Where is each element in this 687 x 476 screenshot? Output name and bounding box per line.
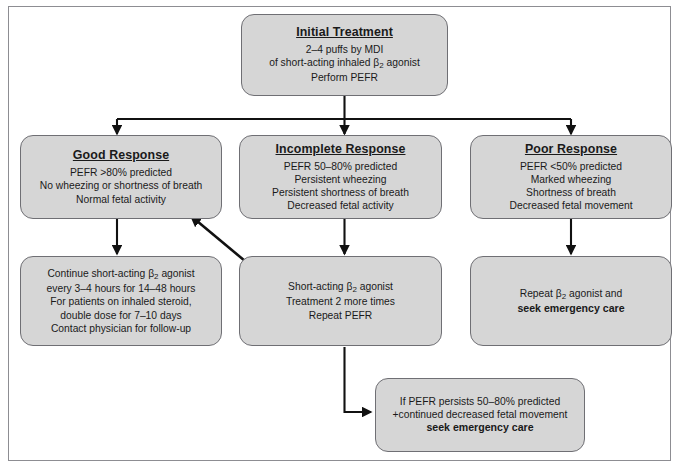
- node-title: Good Response: [73, 148, 169, 164]
- node-line: Marked wheezing: [531, 173, 612, 186]
- node-line: Treatment 2 more times: [286, 295, 395, 308]
- node-line: For patients on inhaled steroid,: [50, 295, 191, 308]
- node-line: Continue short-acting β2 agonist: [47, 267, 194, 282]
- node-line: Perform PEFR: [311, 71, 378, 84]
- node-emergency-care[interactable]: Repeat β2 agonist and seek emergency car…: [470, 256, 672, 346]
- node-poor-response[interactable]: Poor Response PEFR <50% predicted Marked…: [470, 135, 672, 219]
- node-line: PEFR >80% predicted: [70, 166, 172, 179]
- node-line: Shortness of breath: [526, 186, 616, 199]
- node-line: Decreased fetal movement: [509, 199, 632, 212]
- node-title: Incomplete Response: [276, 142, 406, 158]
- node-persistent-emergency[interactable]: If PEFR persists 50–80% predicted +conti…: [375, 378, 585, 452]
- flowchart-page: Initial Treatment 2–4 puffs by MDI of sh…: [0, 0, 687, 476]
- node-line: of short-acting inhaled β2 agonist: [269, 56, 420, 71]
- node-line: 2–4 puffs by MDI: [306, 43, 384, 56]
- node-good-response[interactable]: Good Response PEFR >80% predicted No whe…: [20, 135, 222, 219]
- node-incomplete-response[interactable]: Incomplete Response PEFR 50–80% predicte…: [239, 135, 442, 219]
- node-line: Persistent shortness of breath: [272, 186, 409, 199]
- node-line: double dose for 7–10 days: [60, 309, 181, 322]
- node-repeat-treatment[interactable]: Short-acting β2 agonist Treatment 2 more…: [239, 256, 442, 346]
- node-line-emphasis: seek emergency care: [426, 421, 533, 435]
- node-line: Contact physician for follow-up: [51, 322, 191, 335]
- node-line: Persistent wheezing: [294, 173, 386, 186]
- node-line: Repeat PEFR: [309, 309, 373, 322]
- node-line: Normal fetal activity: [76, 193, 166, 206]
- node-initial-treatment[interactable]: Initial Treatment 2–4 puffs by MDI of sh…: [241, 14, 448, 96]
- node-line: No wheezing or shortness of breath: [40, 179, 203, 192]
- connector-repeat-to-persistent: [345, 347, 372, 412]
- node-line: Decreased fetal activity: [287, 199, 393, 212]
- node-line: +continued decreased fetal movement: [393, 408, 568, 421]
- node-line: Short-acting β2 agonist: [288, 280, 393, 295]
- node-continue-treatment[interactable]: Continue short-acting β2 agonist every 3…: [20, 256, 222, 346]
- node-line: Repeat β2 agonist and: [520, 287, 623, 302]
- node-title: Poor Response: [525, 142, 617, 158]
- node-title: Initial Treatment: [296, 25, 393, 41]
- node-line-emphasis: seek emergency care: [517, 302, 624, 316]
- node-line: If PEFR persists 50–80% predicted: [400, 395, 560, 408]
- node-line: PEFR 50–80% predicted: [284, 160, 397, 173]
- node-line: every 3–4 hours for 14–48 hours: [47, 282, 196, 295]
- node-line: PEFR <50% predicted: [520, 160, 622, 173]
